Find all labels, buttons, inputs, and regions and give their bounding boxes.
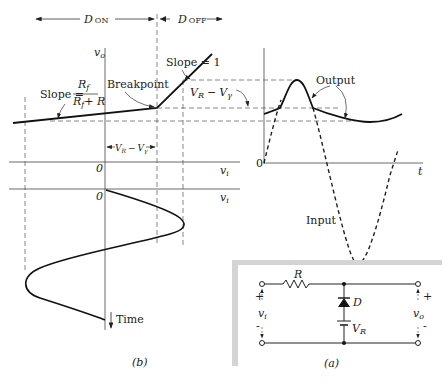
vo-axis-label: vo xyxy=(94,46,105,60)
input-label: Input xyxy=(306,214,337,227)
slope-numerator: Rf xyxy=(77,78,91,92)
origin-label-2: 0 xyxy=(96,190,103,203)
guide-lines xyxy=(25,14,355,272)
frame-left xyxy=(232,260,238,366)
d-off-label: DOFF xyxy=(177,13,207,26)
source-label: VR xyxy=(352,322,366,336)
output-terminal-bottom xyxy=(416,341,421,346)
t-axis-label: t xyxy=(418,165,423,178)
circuit-schematic: R D VR + - vi + - vo (a) xyxy=(232,260,442,370)
vo-label: vo xyxy=(413,307,424,321)
caption-a: (a) xyxy=(324,357,339,370)
frame-top xyxy=(232,260,442,265)
vr-vgamma-label: VR−Vγ xyxy=(190,86,232,100)
diode-label: D xyxy=(352,296,362,309)
input-minus: - xyxy=(256,320,260,333)
output-terminal-top xyxy=(416,282,421,287)
origin-label-3: 0 xyxy=(256,157,263,170)
d-on-label: DON xyxy=(83,13,108,26)
diode-icon xyxy=(338,298,350,307)
vi-label: vi xyxy=(258,307,267,321)
slope-denominator: Rf+ R xyxy=(72,95,105,109)
input-terminal-top xyxy=(260,282,265,287)
clipper-diagram: DON DOFF vo Slope = Rf Rf+ R Slope = 1 B… xyxy=(0,0,448,382)
breakpoint-label: Breakpoint xyxy=(107,78,169,91)
vi-axis-label: vi xyxy=(220,164,229,178)
origin-label: 0 xyxy=(96,162,103,175)
slope-off-label: Slope = 1 xyxy=(166,56,220,69)
output-plus: + xyxy=(423,290,432,303)
input-waveform xyxy=(264,100,398,264)
output-label: Output xyxy=(316,74,356,87)
time-label: Time xyxy=(116,313,144,326)
input-vs-time-plot: 0 vi Time (b) xyxy=(9,189,240,369)
vi-axis-label-2: vi xyxy=(220,191,229,205)
output-minus: - xyxy=(423,320,427,333)
input-plus: + xyxy=(255,290,264,303)
resistor-icon xyxy=(283,280,309,288)
vr-vgamma-dimension: VR−Vγ xyxy=(115,143,148,155)
input-terminal-bottom xyxy=(260,341,265,346)
caption-b: (b) xyxy=(132,356,148,369)
transfer-characteristic: vo Slope = Rf Rf+ R Slope = 1 Breakpoint… xyxy=(9,46,248,330)
region-indicator: DON DOFF xyxy=(36,13,222,26)
resistor-label: R xyxy=(293,268,302,281)
